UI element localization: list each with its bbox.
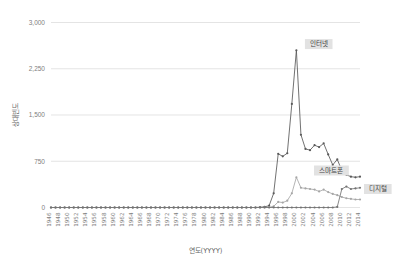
data-point — [304, 206, 306, 208]
data-point — [309, 188, 311, 190]
data-point — [350, 188, 352, 190]
x-axis-tick-label: 1946 — [46, 212, 52, 227]
data-point — [359, 187, 361, 189]
series-labels: 인터넷스마트폰디지털 — [305, 39, 392, 194]
data-point — [259, 206, 261, 208]
x-axis-tick-label: 1994 — [264, 212, 270, 227]
series-스마트폰 — [50, 176, 361, 208]
data-point — [195, 206, 197, 208]
x-axis-tick-label: 2006 — [319, 212, 325, 227]
data-point — [268, 206, 270, 208]
data-point — [232, 206, 234, 208]
x-axis-tick-label: 1952 — [73, 213, 79, 227]
data-point — [313, 189, 315, 191]
data-point — [218, 206, 220, 208]
data-point — [154, 206, 156, 208]
data-point — [336, 158, 338, 160]
data-point — [64, 206, 66, 208]
data-point — [286, 206, 288, 208]
x-axis-tick-label: 1984 — [219, 212, 225, 227]
data-point — [150, 206, 152, 208]
data-point — [291, 192, 293, 194]
data-point — [173, 206, 175, 208]
x-axis-tick-label: 2012 — [346, 213, 352, 227]
data-point — [177, 206, 179, 208]
x-axis-tick-label: 2004 — [310, 212, 316, 227]
data-point — [91, 206, 93, 208]
data-point — [300, 134, 302, 136]
x-axis-tick-label: 2002 — [300, 213, 306, 227]
x-axis-tick-label: 2010 — [337, 212, 343, 227]
data-point — [300, 187, 302, 189]
data-point — [277, 201, 279, 203]
data-point — [295, 206, 297, 208]
data-point — [104, 206, 106, 208]
x-axis-tick-label: 1988 — [237, 212, 243, 227]
data-point — [291, 103, 293, 105]
data-point — [200, 206, 202, 208]
data-point — [295, 176, 297, 178]
data-point — [354, 198, 356, 200]
data-point — [345, 185, 347, 187]
data-point — [345, 197, 347, 199]
data-point — [350, 198, 352, 200]
data-point — [277, 206, 279, 208]
data-point — [354, 176, 356, 178]
x-axis-ticks: 1946194819501952195419561958196019621964… — [46, 212, 361, 227]
data-point — [182, 206, 184, 208]
data-point — [82, 206, 84, 208]
y-axis-tick-label: 3,000 — [29, 19, 46, 26]
x-axis-tick-label: 1976 — [182, 212, 188, 227]
x-axis-tick-label: 1986 — [228, 212, 234, 227]
data-point — [332, 193, 334, 195]
data-point — [282, 201, 284, 203]
data-point — [273, 192, 275, 194]
data-point — [295, 49, 297, 51]
data-point — [213, 206, 215, 208]
x-axis-tick-label: 1948 — [55, 212, 61, 227]
data-point — [204, 206, 206, 208]
data-point — [123, 206, 125, 208]
data-point — [59, 206, 61, 208]
data-point — [186, 206, 188, 208]
data-point — [313, 206, 315, 208]
data-point — [100, 206, 102, 208]
data-point — [95, 206, 97, 208]
x-axis-tick-label: 1974 — [173, 212, 179, 227]
data-point — [286, 152, 288, 154]
data-point — [250, 206, 252, 208]
series-label: 인터넷 — [310, 39, 328, 48]
y-axis-tick-label: 0 — [41, 204, 45, 211]
data-point — [309, 206, 311, 208]
data-point — [168, 206, 170, 208]
x-axis-tick-label: 2000 — [291, 212, 297, 227]
y-axis-tick-label: 750 — [34, 158, 45, 165]
series-인터넷 — [50, 49, 361, 208]
x-axis-tick-label: 1978 — [191, 212, 197, 227]
data-point — [114, 206, 116, 208]
data-point — [327, 191, 329, 193]
x-axis-tick-label: 1992 — [255, 213, 261, 227]
data-point — [332, 206, 334, 208]
data-point — [73, 206, 75, 208]
data-point — [354, 187, 356, 189]
data-point — [304, 187, 306, 189]
data-point — [300, 206, 302, 208]
data-point — [109, 206, 111, 208]
data-point — [245, 206, 247, 208]
data-point — [350, 176, 352, 178]
data-point — [68, 206, 70, 208]
data-point — [254, 206, 256, 208]
data-point — [359, 176, 361, 178]
series-label: 디지털 — [369, 184, 387, 193]
data-point — [336, 194, 338, 196]
data-point — [318, 206, 320, 208]
x-axis-title: 연도(YYYY) — [189, 247, 223, 255]
data-point — [327, 153, 329, 155]
data-point — [77, 206, 79, 208]
x-axis-tick-label: 1970 — [155, 212, 161, 227]
data-point — [277, 153, 279, 155]
series-label: 스마트폰 — [319, 166, 343, 175]
data-point — [141, 206, 143, 208]
x-axis-tick-label: 1950 — [64, 212, 70, 227]
